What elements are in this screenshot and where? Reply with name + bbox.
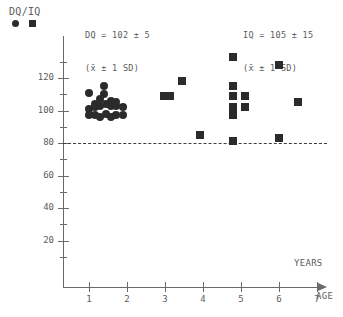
data-point-iq	[178, 77, 186, 85]
data-point-iq	[294, 98, 302, 106]
y-tick-label: 120	[26, 72, 54, 82]
data-point-iq	[229, 111, 237, 119]
data-point-iq	[229, 53, 237, 61]
data-point-dq	[119, 111, 127, 119]
x-tick-label: 5	[232, 294, 250, 304]
dq-annotation-line1: DQ = 102 ± 5	[85, 30, 150, 41]
y-axis-line	[63, 36, 64, 288]
x-tick-label: 4	[194, 294, 212, 304]
iq-annotation: IQ = 105 ± 15 (x̄ ± 1 SD)	[243, 8, 313, 96]
x-tick	[317, 282, 318, 292]
y-tick-minor	[60, 192, 67, 193]
scatter-plot-figure: DQ/IQ DQ = 102 ± 5 (x̄ ± 1 SD) IQ = 105 …	[0, 0, 343, 317]
x-tick-label: 6	[270, 294, 288, 304]
x-tick-label: 1	[80, 294, 98, 304]
x-tick-label: 7	[308, 294, 326, 304]
y-tick-major	[58, 111, 69, 112]
legend-square-icon	[29, 20, 36, 27]
y-tick-label: 20	[26, 235, 54, 245]
data-point-iq	[229, 92, 237, 100]
dq-annotation: DQ = 102 ± 5 (x̄ ± 1 SD)	[85, 8, 150, 96]
data-point-iq	[166, 92, 174, 100]
y-tick-minor	[60, 62, 67, 63]
data-point-iq	[241, 103, 249, 111]
legend-circle-icon	[12, 20, 19, 27]
y-tick-minor	[60, 224, 67, 225]
x-tick	[89, 282, 90, 292]
x-tick-label: 3	[156, 294, 174, 304]
y-tick-minor	[60, 127, 67, 128]
data-point-iq	[275, 61, 283, 69]
y-tick-minor	[60, 94, 67, 95]
x-tick	[165, 282, 166, 292]
data-point-dq	[119, 103, 127, 111]
years-axis-label: YEARS	[294, 258, 323, 268]
x-axis-arrow-icon	[318, 283, 327, 291]
y-tick-major	[58, 241, 69, 242]
x-tick	[203, 282, 204, 292]
data-point-iq	[229, 103, 237, 111]
data-point-dq	[100, 90, 108, 98]
y-tick-major	[58, 78, 69, 79]
x-tick	[279, 282, 280, 292]
reference-line-80	[63, 143, 327, 144]
y-tick-label: 60	[26, 170, 54, 180]
y-tick-label: 40	[26, 202, 54, 212]
x-axis-line	[63, 287, 320, 288]
x-tick	[241, 282, 242, 292]
x-tick	[127, 282, 128, 292]
y-tick-minor	[60, 159, 67, 160]
y-tick-minor	[60, 257, 67, 258]
data-point-iq	[229, 137, 237, 145]
iq-annotation-line1: IQ = 105 ± 15	[243, 30, 313, 41]
data-point-iq	[241, 92, 249, 100]
x-tick-label: 2	[118, 294, 136, 304]
y-tick-major	[58, 176, 69, 177]
y-tick-label: 80	[26, 137, 54, 147]
data-point-iq	[229, 82, 237, 90]
y-tick-label: 100	[26, 105, 54, 115]
data-point-iq	[196, 131, 204, 139]
dq-annotation-line2: (x̄ ± 1 SD)	[85, 63, 150, 74]
y-tick-major	[58, 208, 69, 209]
data-point-iq	[275, 134, 283, 142]
data-point-dq	[85, 89, 93, 97]
legend-title: DQ/IQ	[9, 6, 41, 17]
